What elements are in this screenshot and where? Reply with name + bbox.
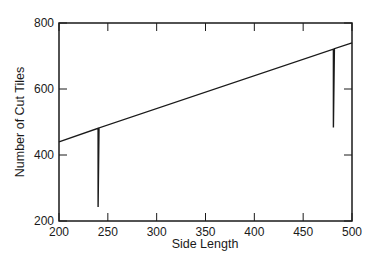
x-axis-title: Side Length <box>172 237 239 251</box>
plot-frame <box>59 23 352 221</box>
y-tick-label: 400 <box>34 148 54 162</box>
x-tick-label: 500 <box>342 225 362 239</box>
y-tick-label: 200 <box>34 214 54 228</box>
line-chart: 200250300350400450500 200400600800 Side … <box>0 0 374 270</box>
x-tick-label: 400 <box>244 225 264 239</box>
y-tick-label: 600 <box>34 82 54 96</box>
x-tick-label: 450 <box>293 225 313 239</box>
plot-border <box>59 23 352 221</box>
x-tick-label: 250 <box>98 225 118 239</box>
y-axis-title: Number of Cut Tiles <box>13 67 27 177</box>
y-tick-label: 800 <box>34 16 54 30</box>
series-line <box>59 43 352 207</box>
axis-ticks <box>59 23 352 221</box>
y-tick-labels: 200400600800 <box>34 16 54 228</box>
x-tick-label: 300 <box>147 225 167 239</box>
